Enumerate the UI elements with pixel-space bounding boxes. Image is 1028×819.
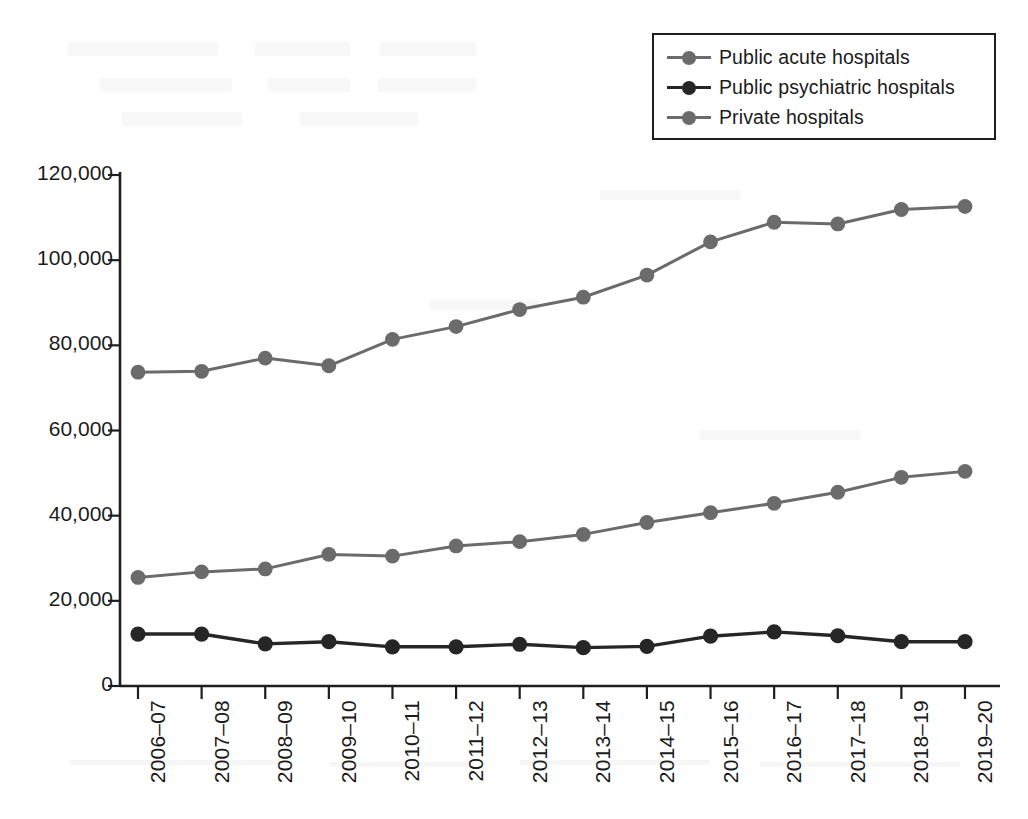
x-axis-tick-label: 2015–16	[719, 700, 743, 783]
x-axis-tick-label: 2006–07	[146, 700, 170, 783]
x-axis-tick-label: 2019–20	[973, 700, 997, 783]
x-axis-tick-label: 2007–08	[210, 700, 234, 783]
legend-marker-icon	[667, 79, 711, 95]
x-axis-tick-label: 2013–14	[591, 700, 615, 783]
legend-dot	[682, 81, 696, 95]
line-chart: 120,000100,00080,00060,00040,00020,0000 …	[0, 0, 1028, 819]
legend-dot	[682, 51, 696, 65]
x-axis-tick-label: 2017–18	[846, 700, 870, 783]
x-axis-tick-label: 2009–10	[337, 700, 361, 783]
x-axis-tick-label: 2012–13	[528, 700, 552, 783]
x-axis-tick-label: 2014–15	[655, 700, 679, 783]
x-axis-tick-label: 2018–19	[909, 700, 933, 783]
chart-legend: Public acute hospitals Public psychiatri…	[652, 33, 996, 140]
x-axis-tick-label: 2010–11	[400, 700, 424, 782]
legend-label: Private hospitals	[719, 106, 864, 129]
legend-label: Public acute hospitals	[719, 46, 910, 69]
x-axis-tick-label: 2011–12	[464, 700, 488, 782]
legend-dot	[682, 111, 696, 125]
legend-marker-icon	[667, 109, 711, 125]
legend-item-public-acute-hospitals[interactable]: Public acute hospitals	[654, 42, 994, 72]
x-axis-tick-label: 2016–17	[782, 700, 806, 783]
legend-label: Public psychiatric hospitals	[719, 76, 955, 99]
legend-item-private-hospitals[interactable]: Private hospitals	[654, 102, 994, 132]
legend-marker-icon	[667, 49, 711, 65]
legend-item-public-psychiatric-hospitals[interactable]: Public psychiatric hospitals	[654, 72, 994, 102]
x-axis-tick-label: 2008–09	[273, 700, 297, 783]
